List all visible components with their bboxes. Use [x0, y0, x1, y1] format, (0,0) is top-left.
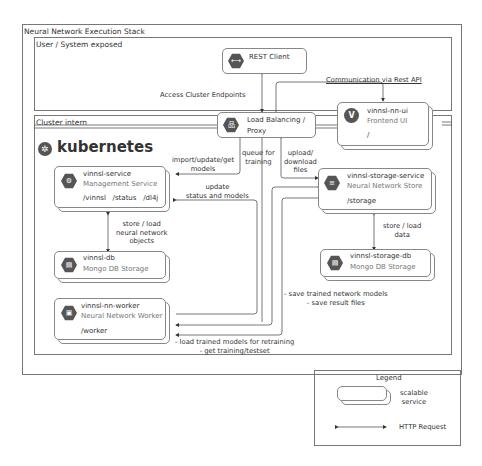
label-update-line2: status and models [186, 192, 249, 201]
frontend-path: / [367, 131, 369, 139]
storage-db-name: vinnsl-storage-db [350, 252, 411, 260]
label-store-load-line1: store / load [116, 220, 167, 229]
label-store-load-nn: store / load neural network objects [116, 220, 167, 246]
label-upload-line2: download [284, 158, 317, 167]
storage-db-node[interactable]: ▤ vinnsl-storage-db Mongo DB Storage [320, 249, 431, 277]
legend-scalable-label: scalable service [400, 389, 428, 406]
storage-service-path: /storage [347, 197, 376, 205]
legend-title: Legend [376, 374, 402, 383]
vinnsl-db-name: vinnsl-db [83, 254, 115, 262]
rest-client-name: REST Client [249, 53, 290, 61]
label-store-load-data: store / load data [383, 222, 421, 239]
worker-desc: Neural Network Worker [81, 312, 162, 320]
label-queue-line2: training [242, 158, 275, 167]
label-update-line1: update [186, 183, 249, 192]
mgmt-service-name: vinnsl-service [83, 170, 131, 178]
label-save-line2: - save result files [284, 299, 388, 308]
worker-node[interactable]: ▣ vinnsl-nn-worker Neural Network Worker… [54, 298, 166, 340]
label-save-line1: - save trained network models [284, 290, 388, 299]
label-queue: queue for training [242, 149, 275, 166]
label-upload-line3: files [284, 166, 317, 175]
storage-service-node[interactable]: ≡ vinnsl-storage-service Neural Network … [318, 168, 432, 210]
label-upload: upload/ download files [284, 149, 317, 175]
label-import: import/update/get models [170, 156, 236, 173]
worker-path: /worker [81, 327, 107, 335]
label-upload-line1: upload/ [284, 149, 317, 158]
label-import-line1: import/update/get [170, 156, 236, 165]
frontend-node[interactable]: V vinnsl-nn-ui Frontend UI / [337, 102, 429, 146]
vinnsl-db-desc: Mongo DB Storage [83, 265, 149, 273]
mgmt-service-paths: /vinnsl /status /dl4j [83, 194, 158, 202]
storage-db-desc: Mongo DB Storage [350, 263, 416, 271]
legend-http-label: HTTP Request [399, 423, 446, 432]
legend-scalable-line1: scalable [400, 389, 428, 398]
storage-service-desc: Neural Network Store [347, 182, 422, 190]
rest-client-node[interactable]: ⟷ REST Client [222, 48, 307, 74]
legend-scalable-line2: service [400, 398, 428, 407]
vue-icon: V [344, 108, 359, 123]
label-store-load-line2: neural network [116, 229, 167, 238]
load-balancer-name2: Proxy [247, 127, 266, 135]
load-balancer-name: Load Balancing / [247, 116, 305, 124]
label-store-load-line3: objects [116, 237, 167, 246]
legend-scalable-sample [337, 386, 387, 401]
storage-service-name: vinnsl-storage-service [347, 172, 424, 180]
frontend-desc: Frontend UI [367, 117, 407, 125]
label-comm: Communication via Rest API [326, 76, 422, 85]
vinnsl-db-node[interactable]: ▤ vinnsl-db Mongo DB Storage [54, 251, 166, 279]
label-load-trained-line1: - load trained models for retraining [175, 338, 294, 347]
label-access: Access Cluster Endpoints [160, 91, 246, 100]
label-store-data-line2: data [383, 231, 421, 240]
frontend-name: vinnsl-nn-ui [367, 107, 408, 115]
label-update: update status and models [186, 183, 249, 200]
label-save: - save trained network models - save res… [284, 290, 388, 307]
label-import-line2: models [170, 165, 236, 174]
label-queue-line1: queue for [242, 149, 275, 158]
label-store-data-line1: store / load [383, 222, 421, 231]
mgmt-service-node[interactable]: ⚙ vinnsl-service Management Service /vin… [54, 166, 166, 208]
load-balancer-node[interactable]: 品 Load Balancing / Proxy [217, 112, 316, 138]
mgmt-service-desc: Management Service [83, 180, 157, 188]
worker-name: vinnsl-nn-worker [81, 302, 139, 310]
label-load-trained-line2: - get training/testset [175, 347, 294, 356]
label-load-trained: - load trained models for retraining - g… [175, 338, 294, 355]
